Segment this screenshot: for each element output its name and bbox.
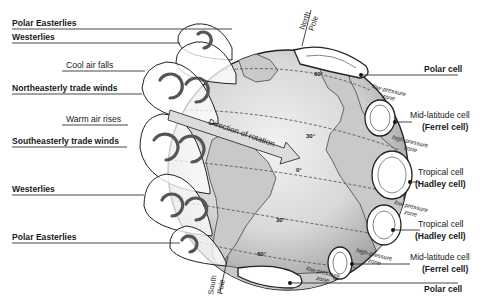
- label-tropical-cell-south: Tropical cell: [418, 219, 464, 229]
- south-pole-label: South Pole: [206, 274, 227, 296]
- lat-label-equator: 0°: [296, 167, 302, 173]
- label-tropical-cell-north: Tropical cell: [418, 167, 464, 177]
- diagram-canvas: 60° 30° 0° 30° 60° North Pole South Pole…: [0, 0, 485, 307]
- label-cool-air-falls: Cool air falls: [66, 60, 113, 70]
- label-southeasterly-trade-winds: Southeasterly trade winds: [12, 136, 119, 146]
- svg-text:Pole: Pole: [215, 279, 226, 295]
- lat-label-30n: 30°: [306, 133, 316, 139]
- label-polar-easterlies-south: Polar Easterlies: [12, 232, 77, 242]
- label-ferrel-cell-north: (Ferrel cell): [422, 122, 468, 132]
- lat-label-30s: 30°: [276, 217, 286, 223]
- atmospheric-circulation-diagram: 60° 30° 0° 30° 60° North Pole South Pole…: [0, 0, 485, 307]
- label-warm-air-rises: Warm air rises: [66, 114, 121, 124]
- label-ferrel-cell-south: (Ferrel cell): [422, 264, 468, 274]
- label-westerlies-north: Westerlies: [12, 32, 55, 42]
- label-hadley-cell-north: (Hadley cell): [415, 179, 466, 189]
- lat-label-60n: 60°: [314, 71, 324, 77]
- ferrel-cell-top: [365, 100, 395, 136]
- label-polar-cell-south: Polar cell: [424, 284, 462, 294]
- label-mid-latitude-cell-north: Mid-latitude cell: [410, 110, 470, 120]
- label-northeasterly-trade-winds: Northeasterly trade winds: [12, 83, 118, 93]
- label-polar-cell-north: Polar cell: [424, 64, 462, 74]
- label-polar-easterlies-north: Polar Easterlies: [12, 18, 77, 28]
- label-mid-latitude-cell-south: Mid-latitude cell: [410, 252, 470, 262]
- label-hadley-cell-south: (Hadley cell): [415, 231, 466, 241]
- label-westerlies-south: Westerlies: [12, 184, 55, 194]
- north-pole-label: North Pole: [297, 10, 320, 33]
- lat-label-60s: 60°: [257, 251, 267, 257]
